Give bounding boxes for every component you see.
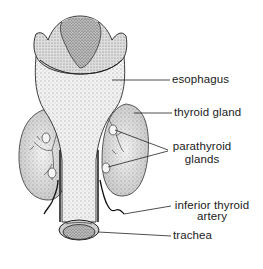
parathyroid-left-lower <box>48 168 56 178</box>
anatomy-diagram: esophagus thyroid gland parathyroid glan… <box>0 0 263 269</box>
label-parathyroid-glands: parathyroid glands <box>172 140 232 166</box>
pharynx-top <box>34 16 127 74</box>
label-inferior-thyroid-artery: inferior thyroid artery <box>172 199 252 223</box>
leader-inferior-thyroid-artery <box>124 206 171 214</box>
leader-trachea <box>98 232 171 236</box>
label-trachea: trachea <box>173 229 212 242</box>
label-thyroid-gland: thyroid gland <box>174 106 241 119</box>
label-parathyroid-line1: parathyroid <box>172 140 232 153</box>
parathyroid-right-lower <box>102 163 110 173</box>
trachea-opening <box>59 220 99 240</box>
label-parathyroid-line2: glands <box>172 153 232 166</box>
label-esophagus: esophagus <box>172 73 229 86</box>
anatomy-illustration <box>0 0 263 269</box>
parathyroid-left-upper <box>42 133 50 143</box>
